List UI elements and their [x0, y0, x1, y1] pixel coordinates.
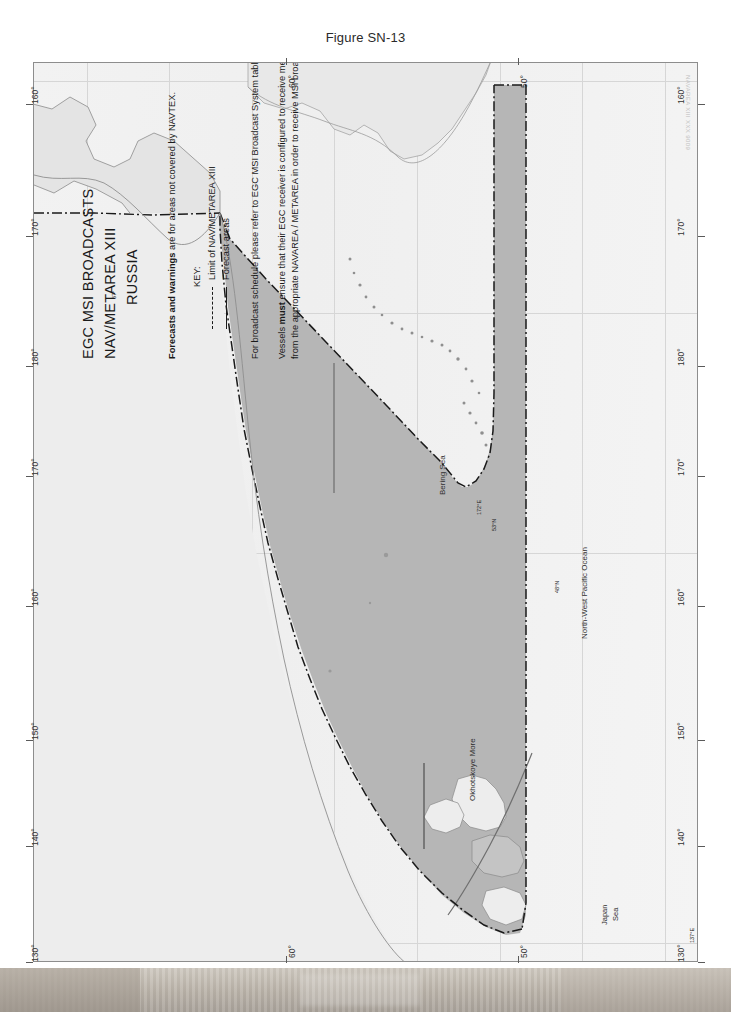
tick-mark-left: [26, 476, 33, 477]
band-right-block: [561, 968, 731, 1012]
tick-mark-right: [698, 104, 705, 105]
axis-tick-right-6: 140°: [676, 828, 686, 846]
tick-mark-right: [698, 476, 705, 477]
tick-mark-left: [26, 366, 33, 367]
coord-callout-130e: 130°E: [697, 951, 698, 962]
tick-mark-left: [26, 104, 33, 105]
legend-note-must: must: [277, 302, 287, 324]
tick-mark-left: [26, 606, 33, 607]
coord-callout-137e: 137°E: [689, 928, 695, 943]
map-figure-frame: Bering Sea North-West Pacific Ocean Okho…: [33, 62, 698, 962]
coord-callout-53n: 53°N: [491, 519, 497, 531]
legend-note-vessels: Vessels must ensure that their EGC recei…: [276, 62, 303, 359]
tick-mark-right: [698, 962, 705, 963]
map-label-north-west-pacific-ocean: North-West Pacific Ocean: [580, 547, 589, 639]
axis-tick-left-1: 170°: [30, 218, 40, 236]
tick-mark-right: [698, 846, 705, 847]
map-label-okhotskoye-more: Okhotskoye More: [468, 738, 477, 801]
tick-mark-right: [698, 740, 705, 741]
solid-line-icon: [222, 287, 230, 329]
tick-mark-left: [26, 962, 33, 963]
dash-dot-line-icon: [208, 287, 216, 329]
band-mid-highlight: [300, 974, 420, 1006]
tick-mark-top: [286, 58, 287, 65]
tick-mark-bottom: [286, 956, 287, 963]
legend-key-item-limit: Limit of NAV/METAREA XIII: [207, 62, 217, 329]
legend-key-label-forecast: Forecast areas: [221, 218, 231, 280]
axis-tick-right-7: 130°: [676, 944, 686, 962]
axis-tick-right-1: 170°: [676, 218, 686, 236]
legend-key-item-forecast: Forecast areas: [221, 62, 231, 329]
axis-tick-left-0: 160°: [30, 86, 40, 104]
legend-text-block: EGC MSI BROADCASTS NAV/METAREA XIII RUSS…: [80, 62, 290, 359]
tick-mark-left: [26, 846, 33, 847]
map-label-japan-sea-line1: Japan: [600, 905, 609, 925]
axis-tick-left-6: 140°: [30, 828, 40, 846]
axis-tick-bottom-1: 50°: [519, 945, 529, 958]
legend-note-lead: Vessels: [277, 324, 287, 359]
tick-mark-right: [698, 606, 705, 607]
legend-intro-rest: are for areas not covered by NAVTEX.: [167, 92, 177, 253]
map-label-bering-sea: Bering Sea: [438, 455, 447, 495]
coord-callout-172e: 172°E: [476, 500, 482, 515]
legend-heading-metarea: NAV/METAREA XIII: [102, 62, 118, 359]
page-bottom-band: [0, 968, 731, 1012]
axis-tick-top-0: 60°: [287, 75, 297, 88]
axis-tick-right-3: 170°: [676, 458, 686, 476]
legend-key-title: KEY:: [192, 62, 202, 287]
axis-tick-right-0: 160°: [676, 86, 686, 104]
legend-note-schedule: For broadcast schedule please refer to E…: [249, 62, 262, 359]
tick-mark-left: [26, 236, 33, 237]
tick-mark-right: [698, 366, 705, 367]
axis-tick-left-2: 180°: [30, 348, 40, 366]
axis-tick-right-2: 180°: [676, 348, 686, 366]
tick-mark-left: [26, 740, 33, 741]
axis-tick-left-7: 130°: [30, 944, 40, 962]
legend-intro-bold: Forecasts and warnings: [167, 253, 177, 359]
legend-heading-egc: EGC MSI BROADCASTS: [80, 62, 96, 359]
map-label-japan-sea-line2: Sea: [611, 908, 620, 921]
axis-tick-top-1: 50°: [519, 75, 529, 88]
axis-tick-left-4: 160°: [30, 588, 40, 606]
axis-tick-left-5: 150°: [30, 722, 40, 740]
tick-mark-right: [698, 236, 705, 237]
legend-intro: Forecasts and warnings are for areas not…: [166, 62, 179, 359]
figure-caption: Figure SN-13: [0, 30, 731, 45]
coord-callout-48n: 48°N: [554, 581, 560, 593]
legend-key-label-limit: Limit of NAV/METAREA XIII: [207, 166, 217, 280]
legend-heading-russia: RUSSIA: [124, 62, 140, 305]
tick-mark-top: [518, 58, 519, 65]
axis-tick-right-5: 150°: [676, 722, 686, 740]
band-left-block: [0, 968, 140, 1012]
tick-mark-bottom: [518, 956, 519, 963]
axis-tick-bottom-0: 60°: [287, 945, 297, 958]
axis-tick-left-3: 170°: [30, 458, 40, 476]
axis-tick-right-4: 160°: [676, 588, 686, 606]
